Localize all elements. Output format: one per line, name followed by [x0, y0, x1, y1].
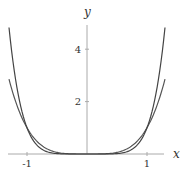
x-tick-label: -1 — [22, 158, 32, 169]
plot-area: -11 24 x y — [0, 0, 188, 173]
x-tick-label: 1 — [144, 158, 150, 169]
x-axis-label: x — [173, 147, 180, 161]
y-tick-label: 4 — [75, 44, 81, 55]
y-axis-label: y — [83, 5, 91, 19]
y-tick-label: 2 — [75, 96, 81, 107]
